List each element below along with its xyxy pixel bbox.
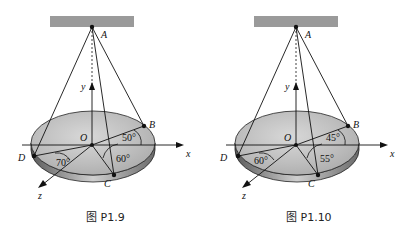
label-y: y — [285, 82, 289, 92]
label-c: C — [308, 179, 315, 189]
label-a: A — [101, 30, 107, 40]
label-z: z — [242, 191, 246, 201]
label-z: z — [38, 191, 42, 201]
angle-c: 60° — [116, 154, 130, 164]
label-x: x — [390, 149, 394, 159]
figure-p1-10: A y O B x D C z 45° 55° 60° 图 P1.10 — [204, 0, 408, 240]
label-c: C — [104, 179, 111, 189]
label-d: D — [18, 153, 25, 163]
label-b: B — [353, 120, 359, 130]
angle-d: 60° — [254, 156, 268, 166]
label-x: x — [186, 149, 190, 159]
label-d: D — [220, 153, 227, 163]
angle-c: 55° — [320, 154, 334, 164]
figure-p1-9: A y O B x D C z 50° 60° 70° 图 P1.9 — [0, 0, 204, 240]
label-o: O — [284, 133, 291, 143]
figure-caption: 图 P1.9 — [86, 212, 125, 223]
label-a: A — [305, 30, 311, 40]
label-o: O — [80, 133, 87, 143]
angle-b: 45° — [326, 133, 340, 143]
label-b: B — [149, 120, 155, 130]
label-y: y — [81, 82, 85, 92]
angle-d: 70° — [56, 158, 70, 168]
figure-caption: 图 P1.10 — [286, 212, 332, 223]
angle-b: 50° — [122, 133, 136, 143]
